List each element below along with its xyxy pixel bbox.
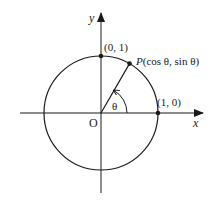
- point-p: [127, 61, 132, 66]
- point-p-label: P(cos θ, sin θ): [135, 55, 199, 68]
- point-p-coords: (cos θ, sin θ): [143, 55, 200, 68]
- y-axis-label: y: [88, 11, 95, 25]
- point-right-label: (1, 0): [157, 96, 181, 109]
- angle-label: θ: [112, 100, 117, 112]
- point-right: [156, 111, 161, 116]
- origin-label: O: [89, 116, 98, 130]
- point-top: [99, 54, 104, 59]
- unit-circle-diagram: y x O (0, 1) (1, 0) P(cos θ, sin θ) θ: [0, 0, 224, 201]
- x-axis-label: x: [192, 116, 199, 130]
- point-top-label: (0, 1): [104, 41, 128, 54]
